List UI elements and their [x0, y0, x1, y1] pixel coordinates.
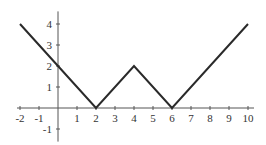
x-tick-label: 7	[188, 112, 194, 124]
y-tick-label: 1	[47, 81, 53, 93]
x-tick-label: 2	[93, 112, 99, 124]
x-tick-label: 3	[112, 112, 118, 124]
x-tick-label: 8	[207, 112, 213, 124]
x-tick-label: 9	[226, 112, 232, 124]
chart: -2-1123456789104321-1	[0, 0, 266, 145]
y-tick-label: 4	[47, 18, 53, 30]
x-tick-label: 4	[131, 112, 137, 124]
x-tick-label: 5	[150, 112, 156, 124]
series	[20, 24, 248, 108]
x-tick-label: -2	[15, 112, 24, 124]
x-tick-label: 10	[243, 112, 255, 124]
y-tick-label: 3	[47, 39, 53, 51]
y-tick-label: -1	[43, 123, 52, 135]
tick-labels: -2-1123456789104321-1	[15, 18, 254, 135]
x-tick-label: 1	[74, 112, 80, 124]
y-tick-label: 2	[47, 60, 53, 72]
x-tick-label: 6	[169, 112, 175, 124]
